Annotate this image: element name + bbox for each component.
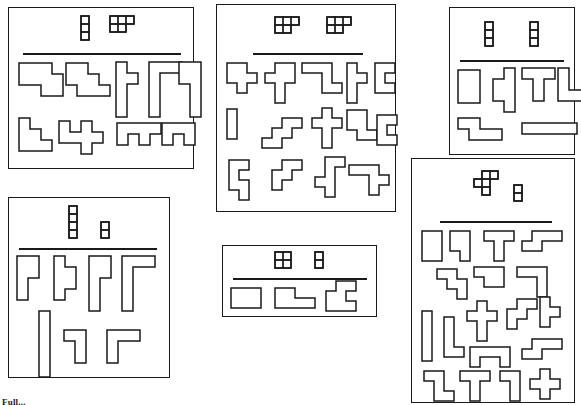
instance-bottom-right-separator xyxy=(440,221,552,223)
piece-f-pentomino[interactable] xyxy=(347,63,367,103)
header-tile-i-tromino-vertical-b xyxy=(530,22,538,46)
piece-r-tetromino-a[interactable] xyxy=(500,371,520,401)
header-tile-i-tromino-vertical-a xyxy=(485,22,493,46)
piece-l-pentomino-a[interactable] xyxy=(474,267,504,287)
header-tile-square-tetromino xyxy=(275,252,291,268)
piece-r-pentomino[interactable] xyxy=(17,256,39,300)
piece-t-hexomino[interactable] xyxy=(54,256,76,300)
piece-l-hexomino[interactable] xyxy=(275,288,315,308)
piece-l-hexomino-tall[interactable] xyxy=(122,256,155,311)
header-tile-i-tetromino-vertical xyxy=(69,206,77,238)
instance-top-right-separator xyxy=(460,60,564,62)
piece-z-hexomino-a[interactable] xyxy=(507,299,537,329)
instance-bottom-left-header-tiles xyxy=(9,198,171,379)
piece-rect-3x2[interactable] xyxy=(231,288,261,308)
header-tile-s-tetromino xyxy=(474,171,498,195)
instance-top-middle-header-tiles xyxy=(217,5,397,213)
piece-j-pentomino[interactable] xyxy=(162,123,195,145)
piece-bar-1x5[interactable] xyxy=(522,123,577,134)
header-tile-domino-vertical xyxy=(514,185,522,201)
figure-canvas xyxy=(0,0,581,405)
instance-bottom-right-header-tiles xyxy=(412,159,576,404)
header-tile-p-tetromino xyxy=(110,16,134,32)
instance-top-right-header-tiles xyxy=(450,8,576,156)
piece-l-heptomino-tall[interactable] xyxy=(149,62,182,117)
piece-f-pentomino-a[interactable] xyxy=(540,297,560,327)
piece-z-pentomino-low[interactable] xyxy=(458,118,502,140)
piece-w-staircase[interactable] xyxy=(262,118,302,148)
piece-bar-vert-a[interactable] xyxy=(422,311,432,361)
header-tile-p-tetromino-b xyxy=(327,17,351,33)
instance-bottom-middle-separator xyxy=(233,278,367,280)
piece-s-pentomino-a[interactable] xyxy=(450,231,470,261)
instance-top-left[interactable] xyxy=(8,7,194,169)
piece-j-hexomino-tall[interactable] xyxy=(89,256,111,311)
piece-t-hexomino-tall[interactable] xyxy=(116,62,138,117)
piece-s-pentomino-l[interactable] xyxy=(229,160,249,200)
instance-top-right[interactable] xyxy=(449,7,575,155)
piece-n-hexomino[interactable] xyxy=(347,110,377,140)
piece-u-hexomino-a[interactable] xyxy=(470,347,510,367)
piece-c-pentomino[interactable] xyxy=(375,63,395,93)
piece-u-pentomino[interactable] xyxy=(117,123,161,145)
piece-t-tetromino[interactable] xyxy=(107,330,140,363)
piece-rect-domino[interactable] xyxy=(227,109,237,139)
piece-plus-pentomino[interactable] xyxy=(312,108,342,148)
piece-j-tetromino-a[interactable] xyxy=(424,371,454,401)
piece-s-hexomino-2[interactable] xyxy=(326,281,356,311)
piece-s-pentomino[interactable] xyxy=(493,68,515,112)
piece-j-hexomino[interactable] xyxy=(315,157,345,197)
piece-l-pentomino[interactable] xyxy=(19,118,52,151)
header-tile-i-tromino-vertical xyxy=(81,16,89,40)
instance-bottom-middle-header-tiles xyxy=(223,246,378,318)
piece-plus-hexomino[interactable] xyxy=(59,121,103,154)
instance-bottom-left-separator xyxy=(19,248,157,250)
piece-y-hexomino[interactable] xyxy=(302,63,342,93)
piece-t-pentomino[interactable] xyxy=(227,63,257,93)
piece-z-heptomino[interactable] xyxy=(19,63,63,96)
header-tile-domino-vertical xyxy=(101,222,109,238)
piece-t-pentomino-wide[interactable] xyxy=(522,68,555,101)
header-tile-p-tetromino-a xyxy=(275,17,299,33)
piece-s-hexomino[interactable] xyxy=(265,63,295,103)
piece-rect-2x3[interactable] xyxy=(458,70,480,103)
instance-bottom-middle[interactable] xyxy=(222,245,377,317)
instance-top-middle-separator xyxy=(253,53,363,55)
piece-r-heptomino-tall[interactable] xyxy=(179,62,201,117)
piece-t-hexomino-a[interactable] xyxy=(467,301,497,341)
instance-top-left-separator xyxy=(23,53,181,55)
piece-t-tetromino-b[interactable] xyxy=(530,369,560,399)
piece-z-pentomino-a[interactable] xyxy=(522,231,562,251)
figure-caption: Full... xyxy=(2,397,26,405)
instance-bottom-left[interactable] xyxy=(8,197,170,378)
piece-t-pentomino-a[interactable] xyxy=(484,231,514,261)
piece-t-tetromino-a[interactable] xyxy=(460,371,490,401)
piece-staircase-nonomino[interactable] xyxy=(66,63,110,96)
header-tile-domino-vertical xyxy=(315,252,323,268)
instance-top-middle[interactable] xyxy=(216,4,396,212)
piece-j-pentomino-a[interactable] xyxy=(517,267,547,297)
piece-w-pentomino-a[interactable] xyxy=(437,269,467,299)
piece-z-pentomino[interactable] xyxy=(272,160,302,190)
piece-s-hexomino-b[interactable] xyxy=(522,339,562,359)
piece-j-tetromino[interactable] xyxy=(64,330,86,363)
piece-bar-vertical-1x6[interactable] xyxy=(39,311,50,377)
piece-l-hexomino-a[interactable] xyxy=(444,317,464,357)
instance-top-left-header-tiles xyxy=(9,8,195,170)
piece-rect-2x3-a[interactable] xyxy=(422,231,442,261)
piece-w-pentomino[interactable] xyxy=(349,165,389,195)
instance-bottom-right[interactable] xyxy=(411,158,575,403)
piece-l-pentomino-big[interactable] xyxy=(558,68,581,101)
piece-e-pentomino[interactable] xyxy=(377,115,397,145)
